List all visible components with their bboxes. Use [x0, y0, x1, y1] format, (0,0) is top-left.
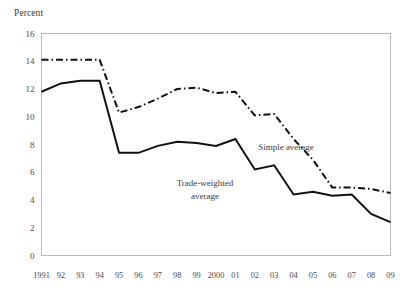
x-tick-93: 93: [76, 271, 84, 280]
x-tick-96: 96: [134, 271, 142, 280]
y-tick-6: 6: [30, 167, 35, 177]
x-tick-01: 01: [231, 271, 239, 280]
y-tick-4: 4: [30, 195, 35, 205]
y-tick-8: 8: [30, 140, 35, 150]
y-tick-0: 0: [30, 251, 35, 261]
x-tick-09: 09: [386, 271, 394, 280]
x-tick-97: 97: [154, 271, 162, 280]
plot-frame: [42, 34, 391, 256]
x-tick-05: 05: [309, 271, 317, 280]
annotation-trade-weighted-line2: average: [191, 191, 219, 201]
annotation-trade-weighted-line1: Trade-weighted: [177, 178, 234, 188]
x-tick-98: 98: [173, 271, 181, 280]
y-tick-14: 14: [26, 56, 36, 66]
y-tick-2: 2: [30, 223, 35, 233]
x-axis-tick-labels: 1991929394959697989920000102030405060708…: [33, 271, 394, 280]
x-tick-99: 99: [192, 271, 200, 280]
y-tick-16: 16: [26, 29, 36, 39]
x-tick-95: 95: [115, 271, 123, 280]
y-tick-12: 12: [26, 84, 35, 94]
x-tick-02: 02: [251, 271, 259, 280]
chart-container: Percent 0246810121416 199192939495969798…: [0, 0, 411, 304]
y-tick-10: 10: [26, 112, 36, 122]
x-tick-2000: 2000: [208, 271, 225, 280]
y-axis-tick-labels: 0246810121416: [26, 29, 36, 261]
x-tick-04: 04: [289, 271, 298, 280]
x-tick-1991: 1991: [33, 271, 50, 280]
x-tick-08: 08: [367, 271, 375, 280]
x-tick-06: 06: [328, 271, 336, 280]
x-tick-07: 07: [348, 271, 356, 280]
x-tick-92: 92: [57, 271, 65, 280]
chart-plot: 0246810121416 19919293949596979899200001…: [0, 0, 411, 304]
x-tick-03: 03: [270, 271, 278, 280]
x-tick-94: 94: [96, 271, 105, 280]
annotation-simple-average: Simple average: [258, 142, 314, 152]
